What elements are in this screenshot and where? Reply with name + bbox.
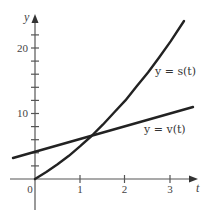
t-axis-label: t — [196, 181, 200, 195]
s-curve-label: y = s(t) — [154, 65, 196, 78]
x-tick-label-3: 3 — [167, 183, 173, 195]
y-axis-arrow-icon — [32, 14, 39, 23]
x-tick-label-1: 1 — [77, 183, 83, 195]
y-axis — [32, 14, 39, 210]
origin-label: 0 — [27, 183, 33, 195]
x-tick-label-2: 2 — [122, 183, 128, 195]
v-line-label: y = v(t) — [143, 123, 186, 136]
y-tick-label-20: 20 — [17, 42, 29, 54]
y-axis-label: y — [23, 10, 30, 24]
y-tick-label-10: 10 — [17, 107, 29, 119]
s-curve — [35, 21, 184, 179]
chart: 20 10 0 1 2 3 y t y = s(t) y = v(t) — [0, 0, 208, 219]
